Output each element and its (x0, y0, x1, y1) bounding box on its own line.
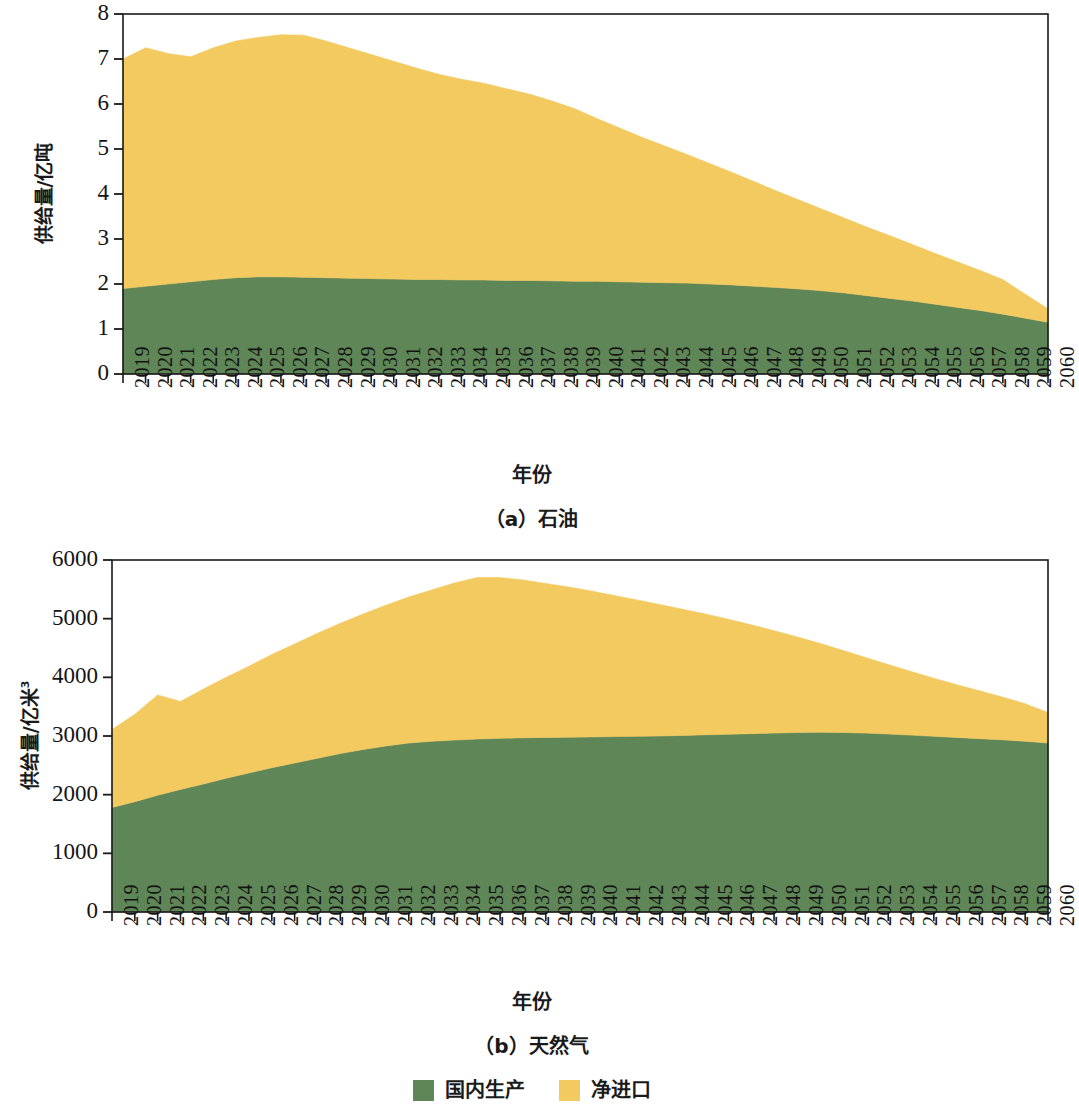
x-tick-label: 2034 (469, 346, 492, 388)
plot-area-oil (0, 0, 1063, 400)
x-tick-label: 2020 (143, 884, 166, 926)
x-tick-label: 2021 (166, 884, 189, 926)
legend-entry-net-import: 净进口 (559, 1080, 651, 1101)
x-tick-label: 2033 (447, 346, 470, 388)
y-tick-label: 6 (0, 91, 109, 114)
x-tick-label: 2025 (266, 346, 289, 388)
x-tick-label: 2048 (782, 884, 805, 926)
x-tick-label: 2057 (988, 346, 1011, 388)
x-tick-label: 2035 (485, 884, 508, 926)
x-tick-label: 2040 (605, 346, 628, 388)
x-tick-label: 2022 (199, 346, 222, 388)
x-tick-label: 2028 (334, 346, 357, 388)
chart-panel-gas: 供给量/亿米3 20192020202120222023202420252026… (0, 546, 1063, 1076)
x-tick-label: 2052 (873, 884, 896, 926)
x-tick-label: 2058 (1011, 346, 1034, 388)
legend-entry-domestic: 国内生产 (413, 1080, 525, 1101)
x-tick-label: 2055 (943, 346, 966, 388)
x-tick-label: 2047 (759, 884, 782, 926)
x-tick-label: 2023 (221, 346, 244, 388)
y-tick-label: 7 (0, 46, 109, 69)
x-tick-label: 2030 (371, 884, 394, 926)
x-tick-label: 2024 (244, 346, 267, 388)
x-tick-label: 2038 (560, 346, 583, 388)
y-tick-label: 5000 (0, 606, 98, 629)
y-tick-label: 0 (0, 899, 98, 922)
x-tick-label: 2055 (942, 884, 965, 926)
y-tick-label: 1000 (0, 840, 98, 863)
x-tick-label: 2053 (898, 346, 921, 388)
x-tick-label: 2021 (176, 346, 199, 388)
y-tick-label: 2000 (0, 782, 98, 805)
x-tick-label: 2035 (492, 346, 515, 388)
x-tick-label: 2057 (988, 884, 1011, 926)
x-tick-label: 2053 (896, 884, 919, 926)
x-tick-label: 2026 (289, 346, 312, 388)
x-tick-label: 2049 (808, 346, 831, 388)
x-tick-label: 2043 (672, 346, 695, 388)
x-tick-label: 2040 (599, 884, 622, 926)
y-tick-label: 0 (0, 361, 109, 384)
x-tick-label: 2059 (1033, 346, 1056, 388)
x-tick-label: 2054 (919, 884, 942, 926)
y-tick-label: 3000 (0, 723, 98, 746)
x-tick-label: 2059 (1033, 884, 1056, 926)
x-tick-label: 2045 (718, 346, 741, 388)
x-tick-label: 2041 (627, 346, 650, 388)
x-tick-label: 2031 (402, 346, 425, 388)
x-tick-label: 2037 (537, 346, 560, 388)
x-tick-label: 2050 (828, 884, 851, 926)
x-tick-label: 2051 (851, 884, 874, 926)
x-tick-label: 2044 (691, 884, 714, 926)
x-axis-title-gas: 年份 (0, 986, 1063, 1015)
x-tick-label: 2030 (379, 346, 402, 388)
x-tick-label: 2045 (714, 884, 737, 926)
x-tick-label: 2060 (1056, 884, 1079, 926)
x-tick-label: 2046 (740, 346, 763, 388)
y-tick-label: 6000 (0, 547, 98, 570)
legend-swatch-domestic (413, 1080, 434, 1101)
y-tick-label: 1 (0, 316, 109, 339)
x-tick-label: 2027 (303, 884, 326, 926)
x-tick-label: 2049 (805, 884, 828, 926)
legend-label-net-import: 净进口 (591, 1080, 651, 1101)
x-tick-label: 2042 (645, 884, 668, 926)
x-tick-label: 2029 (348, 884, 371, 926)
x-tick-label: 2058 (1010, 884, 1033, 926)
x-tick-label: 2019 (131, 346, 154, 388)
x-tick-label: 2041 (622, 884, 645, 926)
x-tick-label: 2029 (357, 346, 380, 388)
x-tick-label: 2036 (508, 884, 531, 926)
x-tick-label: 2044 (695, 346, 718, 388)
x-axis-title-oil: 年份 (0, 459, 1063, 488)
plot-area-gas (0, 546, 1063, 926)
x-tick-label: 2054 (921, 346, 944, 388)
y-tick-label: 8 (0, 1, 109, 24)
x-tick-label: 2031 (394, 884, 417, 926)
x-tick-label: 2043 (668, 884, 691, 926)
x-tick-label: 2022 (188, 884, 211, 926)
x-tick-label: 2047 (763, 346, 786, 388)
x-tick-label: 2028 (325, 884, 348, 926)
x-tick-label: 2036 (515, 346, 538, 388)
y-tick-label: 2 (0, 271, 109, 294)
x-tick-label: 2019 (120, 884, 143, 926)
legend-label-domestic: 国内生产 (445, 1080, 525, 1101)
y-tick-label: 3 (0, 226, 109, 249)
x-tick-label: 2024 (234, 884, 257, 926)
y-tick-label: 4000 (0, 664, 98, 687)
x-tick-label: 2032 (417, 884, 440, 926)
x-tick-label: 2050 (830, 346, 853, 388)
x-tick-label: 2039 (577, 884, 600, 926)
x-tick-label: 2056 (966, 346, 989, 388)
x-tick-label: 2046 (736, 884, 759, 926)
x-tick-label: 2034 (462, 884, 485, 926)
x-tick-label: 2042 (650, 346, 673, 388)
x-tick-label: 2056 (965, 884, 988, 926)
x-tick-label: 2039 (582, 346, 605, 388)
x-tick-label: 2026 (280, 884, 303, 926)
x-tick-label: 2038 (554, 884, 577, 926)
x-tick-label: 2052 (876, 346, 899, 388)
legend-swatch-net-import (559, 1080, 580, 1101)
y-tick-label: 5 (0, 136, 109, 159)
